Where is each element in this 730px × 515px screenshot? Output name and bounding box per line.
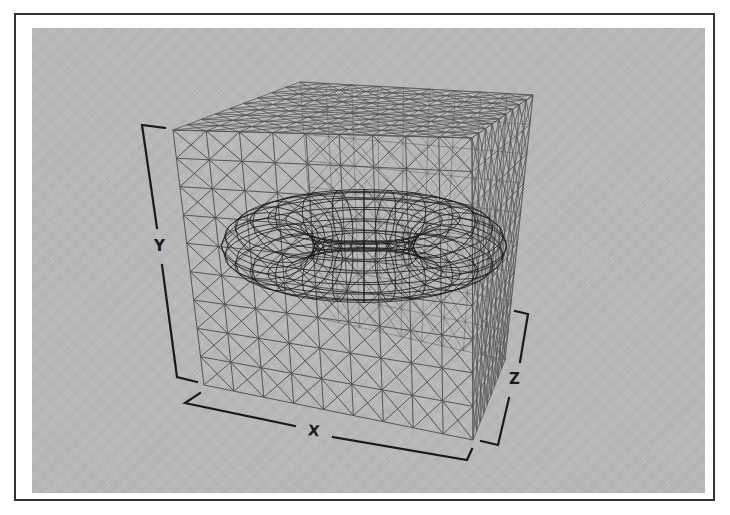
y-axis-label: Y: [154, 239, 165, 254]
z-axis-bracket-bottom: [481, 398, 509, 445]
scene-canvas: [0, 0, 730, 515]
x-axis-bracket-left: [185, 393, 295, 426]
z-axis-bracket-top: [515, 311, 528, 362]
wireframe-torus: [221, 190, 506, 303]
x-axis-bracket-right: [333, 437, 472, 460]
z-axis-label: Z: [509, 372, 520, 387]
y-axis-bracket-top: [142, 125, 165, 228]
x-axis-label: X: [307, 423, 320, 439]
